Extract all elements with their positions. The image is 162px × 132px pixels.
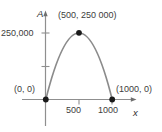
root-annotation: (1000, 0): [116, 85, 152, 94]
point-origin: [43, 97, 49, 103]
graph-figure: A x 250,000 500 1000 (500, 250 000) (0, …: [0, 0, 162, 132]
origin-annotation: (0, 0): [14, 85, 35, 94]
y-tick-label-250000: 250,000: [1, 29, 34, 38]
x-tick-label-1000: 1000: [98, 106, 118, 115]
x-axis-arrow-icon: [131, 97, 137, 101]
parabola-curve: [46, 33, 112, 100]
vertex-annotation: (500, 250 000): [58, 11, 117, 20]
y-axis-label: A: [37, 9, 43, 19]
point-root-1000: [109, 97, 115, 103]
x-axis-label: x: [133, 108, 138, 118]
y-axis-arrow-icon: [43, 11, 47, 17]
point-vertex: [76, 30, 82, 36]
x-tick-label-500: 500: [66, 106, 81, 115]
